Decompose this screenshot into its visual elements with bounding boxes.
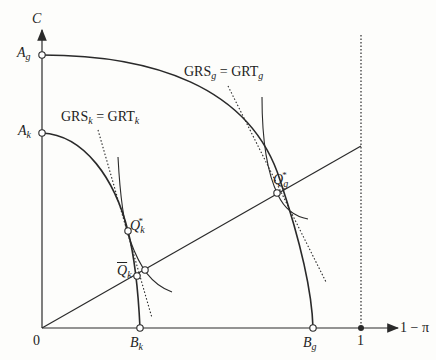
label-Q-g-star: Qg* [273,171,287,189]
label-B-g: Bg [303,336,317,352]
point-A-k [39,130,45,136]
label-B-k: Bk [130,336,143,352]
ray-from-origin [42,146,361,328]
origin-label: 0 [33,334,40,348]
diagram-svg [0,0,436,360]
x-axis-label: 1 − π [400,321,429,335]
point-A-g [39,52,45,58]
point-ray-k-intersection [142,267,148,273]
point-B-g [310,325,316,331]
label-Q-k-bar: Qk [117,264,132,280]
x-tick-one-label: 1 [357,334,364,348]
annotation-k-condition: GRSk = GRTk [61,110,139,126]
diagram-canvas: C 1 − π 0 1 Ag Ak Bk Bg Qk* Qk Qg* GRSk … [0,0,436,360]
label-A-g: Ag [17,46,31,62]
y-axis-label: C [32,12,41,26]
point-one [358,325,364,331]
point-Q-k-bar [134,273,140,279]
label-A-k: Ak [18,124,31,140]
point-B-k [137,325,143,331]
point-Q-g-star [274,190,280,196]
frontier-g-curve [42,55,313,328]
label-Q-k-star: Qk* [130,217,143,235]
indifference-curve-g [262,97,308,219]
annotation-g-condition: GRSg = GRTg [184,65,263,81]
